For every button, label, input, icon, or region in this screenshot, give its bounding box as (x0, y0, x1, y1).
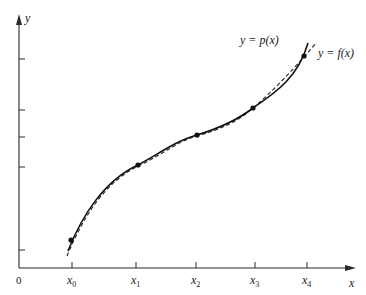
p-curve (68, 43, 308, 251)
y-axis-label: y (24, 11, 31, 25)
f-curve-label: y = f(x) (317, 46, 354, 60)
x-axis-label: x (348, 276, 355, 290)
y-axis: y (16, 11, 31, 268)
f-curve (67, 43, 316, 256)
x-tick-label-x2: x2 (190, 273, 200, 289)
interpolation-diagram: y x 0 x0 x1 x2 x3 x4 y = p(x) y = f(x) (0, 0, 366, 295)
x-tick-label-x4: x4 (301, 273, 311, 289)
node-point-x3 (250, 105, 255, 110)
interpolation-points (68, 53, 306, 242)
origin-label: 0 (16, 274, 22, 286)
p-curve-label: y = p(x) (239, 33, 279, 47)
node-point-x0 (68, 237, 73, 242)
x-tick-label-x0: x0 (66, 273, 76, 289)
node-point-x1 (135, 162, 140, 167)
node-point-x4 (301, 53, 306, 58)
x-tick-label-x1: x1 (130, 273, 140, 289)
y-axis-arrow-icon (16, 14, 22, 25)
node-point-x2 (194, 132, 199, 137)
x-axis: x 0 x0 x1 x2 x3 x4 (16, 262, 356, 290)
x-tick-label-x3: x3 (249, 273, 259, 289)
x-axis-arrow-icon (345, 265, 356, 271)
